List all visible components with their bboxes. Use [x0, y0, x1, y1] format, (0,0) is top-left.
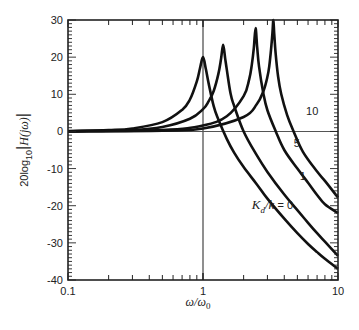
y-tick-label: 20 [51, 51, 63, 63]
y-tick-label: -40 [47, 274, 63, 286]
frequency-response-chart: 0.1110 -40-30-20-100102030 1051Kd/k = 0 … [0, 0, 359, 330]
curve-label: 5 [294, 137, 300, 149]
y-tick-label: -30 [47, 237, 63, 249]
curve-label: Kd/k = 0 [251, 197, 293, 215]
y-tick-label: 30 [51, 14, 63, 26]
y-tick-label: 0 [57, 125, 63, 137]
y-tick-label: -20 [47, 200, 63, 212]
x-axis-title: ω/ω0 [186, 295, 211, 311]
y-tick-labels: -40-30-20-100102030 [47, 14, 63, 286]
x-tick-label: 10 [332, 285, 344, 297]
y-tick-label: -10 [47, 163, 63, 175]
curve-label: 10 [306, 105, 318, 117]
curve-label: 1 [300, 170, 306, 182]
y-axis-title: 20log10|H(jω)| [14, 113, 34, 187]
y-tick-label: 10 [51, 88, 63, 100]
x-tick-label: 0.1 [60, 285, 75, 297]
svg-text:20log10|H(jω)|: 20log10|H(jω)| [14, 113, 34, 187]
svg-text:ω/ω0: ω/ω0 [186, 295, 211, 311]
